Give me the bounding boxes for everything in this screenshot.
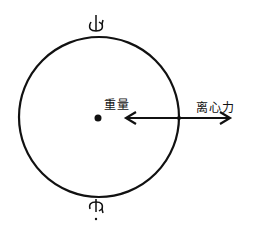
center-dot [95, 115, 102, 122]
earth-rotation-diagram [0, 0, 260, 235]
rotation-arrow-icon [90, 15, 103, 31]
gravity-label: 重量 [104, 95, 130, 112]
rotation-arrow-icon [90, 199, 103, 220]
intersection-dot [177, 116, 181, 120]
centrifugal-force-label: 离心力 [196, 98, 235, 115]
